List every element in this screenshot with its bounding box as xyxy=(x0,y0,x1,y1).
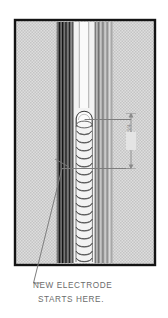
groove-left-wall xyxy=(57,22,73,263)
weld-illustration xyxy=(0,0,168,318)
dimension-value: 3/4 xyxy=(126,124,132,132)
caption-line-2: STARTS HERE. xyxy=(38,296,104,304)
caption-line-1: NEW ELECTRODE xyxy=(33,282,112,290)
unwelded-groove-root xyxy=(79,22,89,108)
base-metal-left xyxy=(17,22,58,263)
groove-right-wall xyxy=(95,22,113,263)
